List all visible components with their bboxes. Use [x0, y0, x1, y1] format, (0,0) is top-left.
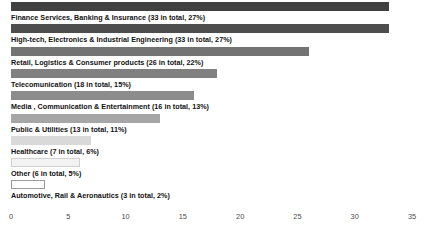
x-tick-label: 5	[56, 212, 80, 222]
bar-label: Healthcare (7 in total, 6%)	[11, 145, 99, 158]
bar-label: Retail, Logistics & Consumer products (2…	[11, 56, 203, 69]
bar-row: Telecomunication (18 in total, 15%)	[0, 69, 429, 91]
bar-label: Media , Communication & Entertainment (1…	[11, 100, 209, 113]
bar-label: Telecomunication (18 in total, 15%)	[11, 78, 131, 91]
bar	[11, 136, 91, 145]
horizontal-bar-chart: Finance Services, Banking & Insurance (3…	[0, 0, 429, 232]
bar-row: Retail, Logistics & Consumer products (2…	[0, 47, 429, 69]
bar-label: Finance Services, Banking & Insurance (3…	[11, 11, 205, 24]
plot-area: Finance Services, Banking & Insurance (3…	[0, 0, 429, 210]
bar	[11, 91, 194, 100]
x-tick-label: 15	[171, 212, 195, 222]
bar-row: High-tech, Electronics & Industrial Engi…	[0, 24, 429, 46]
x-tick-label: 0	[0, 212, 23, 222]
bar-label: Public & Utilities (13 in total, 11%)	[11, 123, 127, 136]
bar	[11, 158, 80, 167]
bar	[11, 2, 389, 11]
bar	[11, 47, 309, 56]
bar-row: Automotive, Rail & Aeronautics (3 in tot…	[0, 180, 429, 202]
x-tick-label: 20	[228, 212, 252, 222]
bar-row: Healthcare (7 in total, 6%)	[0, 136, 429, 158]
bar	[11, 114, 160, 123]
bar	[11, 180, 45, 189]
x-axis: 05101520253035	[0, 210, 429, 232]
bar-row: Other (6 in total, 5%)	[0, 158, 429, 180]
bar-label: High-tech, Electronics & Industrial Engi…	[11, 33, 232, 46]
bar	[11, 69, 217, 78]
bar-row: Media , Communication & Entertainment (1…	[0, 91, 429, 113]
bar-row: Public & Utilities (13 in total, 11%)	[0, 114, 429, 136]
bar	[11, 24, 389, 33]
x-tick-label: 10	[114, 212, 138, 222]
x-tick-label: 35	[400, 212, 424, 222]
x-tick-label: 30	[343, 212, 367, 222]
bar-row: Finance Services, Banking & Insurance (3…	[0, 2, 429, 24]
bar-label: Other (6 in total, 5%)	[11, 167, 81, 180]
x-tick-label: 25	[285, 212, 309, 222]
bar-label: Automotive, Rail & Aeronautics (3 in tot…	[11, 189, 170, 202]
